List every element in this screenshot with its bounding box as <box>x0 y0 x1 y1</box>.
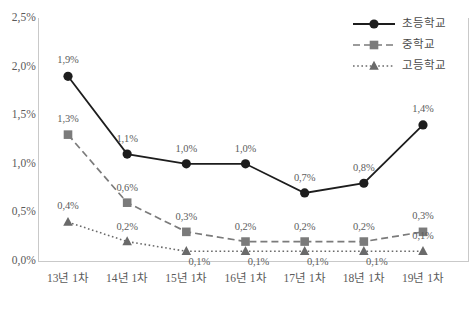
data-point-label: 0,2% <box>294 221 315 232</box>
data-point-label: 0,2% <box>116 221 137 232</box>
data-point-label: 0,1% <box>189 256 210 267</box>
data-point-label: 1,0% <box>235 143 256 154</box>
x-axis-tick-label: 18년 1차 <box>343 272 385 284</box>
data-point-label: 0,3% <box>412 210 433 221</box>
legend-item-초등학교[interactable]: 초등학교 <box>352 14 468 33</box>
data-point-label: 0,2% <box>235 221 256 232</box>
data-point-label: 0,1% <box>366 256 387 267</box>
legend-item-label: 초등학교 <box>396 17 446 30</box>
data-point-label: 1,3% <box>57 113 78 124</box>
legend-item-label: 중학교 <box>396 38 435 51</box>
legend-item-중학교[interactable]: 중학교 <box>352 35 468 54</box>
y-axis-tick-label: 0,5% <box>2 206 36 217</box>
legend-item-고등학교[interactable]: 고등학교 <box>352 56 468 75</box>
data-point-label: 0,1% <box>307 256 328 267</box>
legend-item-label: 고등학교 <box>396 59 446 72</box>
solid-line-circle-marker-icon <box>352 17 396 31</box>
data-point-label: 0,1% <box>248 256 269 267</box>
data-point-label: 0,8% <box>353 162 374 173</box>
x-axis-tick-label: 14년 1차 <box>106 272 148 284</box>
data-point-label: 0,4% <box>57 200 78 211</box>
x-axis-tick-label: 17년 1차 <box>284 272 326 284</box>
data-point-label: 0,2% <box>353 221 374 232</box>
dashed-line-square-marker-icon <box>352 38 396 52</box>
chart-legend: 초등학교중학교고등학교 <box>352 14 468 77</box>
y-axis-tick-label: 1,5% <box>2 109 36 120</box>
y-axis: 0,0%0,5%1,0%1,5%2,0%2,5% <box>0 0 36 312</box>
y-axis-tick-label: 1,0% <box>2 158 36 169</box>
line-chart: 0,0%0,5%1,0%1,5%2,0%2,5% 13년 1차14년 1차15년… <box>0 0 473 312</box>
data-point-label: 0,3% <box>176 211 197 222</box>
x-axis-tick-label: 15년 1차 <box>165 272 207 284</box>
data-point-label: 0,7% <box>294 172 315 183</box>
y-axis-tick-label: 0,0% <box>2 255 36 266</box>
y-axis-tick-label: 2,5% <box>2 12 36 23</box>
data-point-label: 1,1% <box>116 133 137 144</box>
x-axis-tick-label: 13년 1차 <box>47 272 89 284</box>
y-axis-tick-label: 2,0% <box>2 61 36 72</box>
x-axis-tick-label: 19년 1차 <box>402 272 444 284</box>
data-point-label: 0,1% <box>412 230 433 241</box>
data-point-label: 0,6% <box>116 182 137 193</box>
data-point-label: 1,0% <box>176 143 197 154</box>
dotted-line-triangle-marker-icon <box>352 59 396 73</box>
x-axis-tick-label: 16년 1차 <box>224 272 266 284</box>
data-point-label: 1,4% <box>412 103 433 114</box>
data-point-label: 1,9% <box>57 54 78 65</box>
